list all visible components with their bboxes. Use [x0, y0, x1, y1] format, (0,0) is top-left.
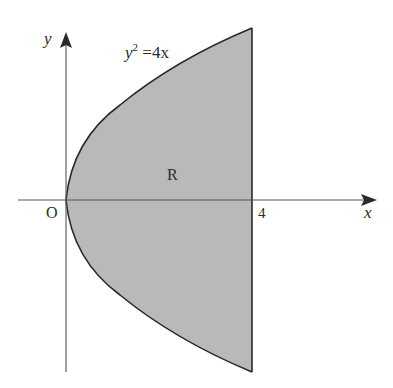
- origin-label: O: [46, 204, 58, 221]
- equation-rhs: =4x: [138, 43, 169, 62]
- x-tick-label-4: 4: [258, 205, 266, 221]
- equation-lhs-base: y: [123, 43, 133, 62]
- diagram-canvas: y x O 4 R y2 =4x: [0, 0, 393, 388]
- curve-equation-label: y2 =4x: [123, 41, 169, 62]
- y-axis-label: y: [42, 29, 52, 48]
- region-label: R: [167, 166, 178, 183]
- x-axis-label: x: [363, 203, 372, 222]
